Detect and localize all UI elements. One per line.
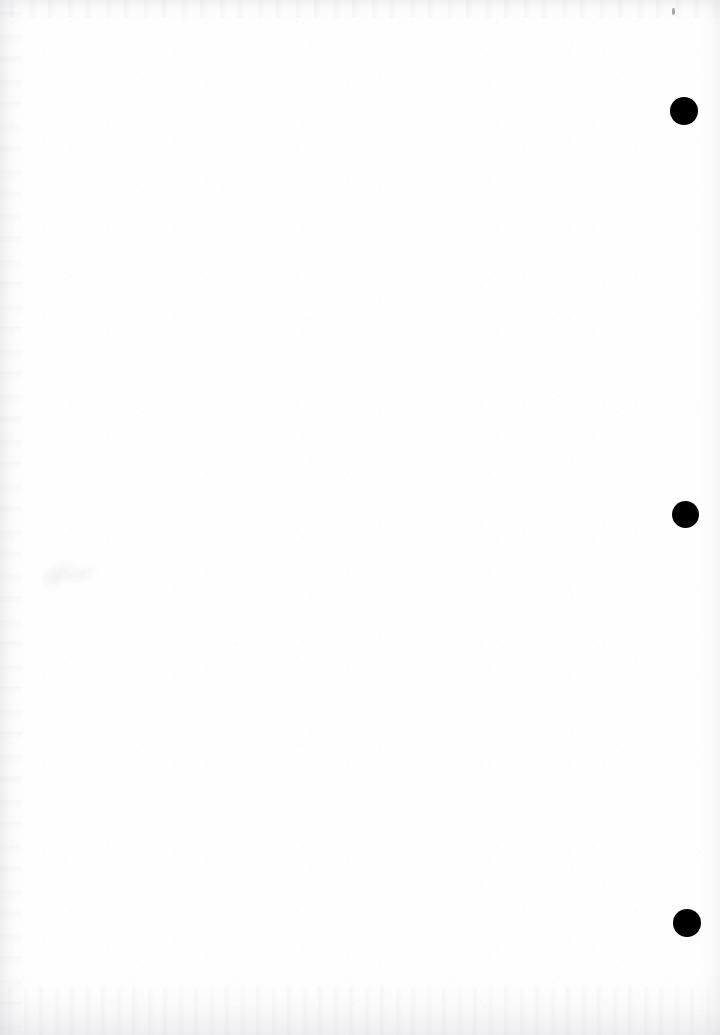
registration-dot-bottom: [673, 909, 701, 937]
scanned-page: [0, 0, 720, 1035]
registration-dot-middle: [672, 501, 699, 528]
speck-top-right: [672, 8, 675, 15]
paper-background: [0, 0, 720, 1035]
registration-dot-top: [670, 97, 698, 125]
